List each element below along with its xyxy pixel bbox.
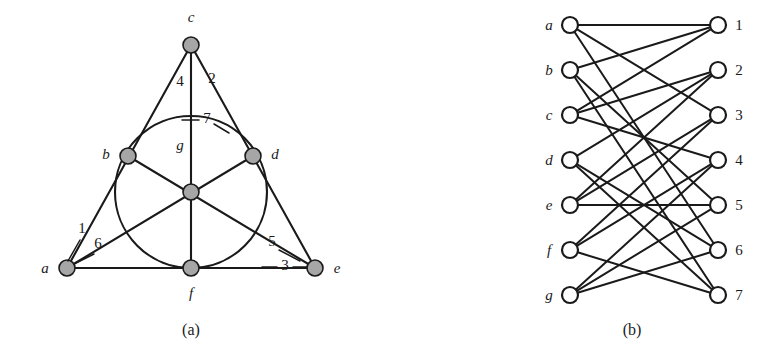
incidence-point-label-c: c	[546, 107, 553, 123]
fano-point-label-g: g	[176, 137, 184, 153]
incidence-line-label-5: 5	[735, 197, 743, 213]
incidence-point-node-d	[562, 152, 578, 168]
incidence-point-label-b: b	[545, 62, 553, 78]
fano-point-b	[120, 148, 136, 164]
leader-line-6	[74, 254, 94, 264]
caption-panel-a: (a)	[182, 321, 200, 339]
fano-line-label-6: 6	[94, 235, 102, 251]
panel-a-fano-plane: abcdefg 1234567 (a)	[41, 9, 340, 339]
fano-point-label-b: b	[102, 146, 110, 162]
fano-line-label-3: 3	[281, 257, 289, 273]
incidence-line-label-6: 6	[735, 242, 743, 258]
fano-line-label-1: 1	[78, 220, 86, 236]
incidence-point-label-d: d	[545, 152, 553, 168]
incidence-edge-d-2	[577, 74, 711, 156]
panel-b-edges	[574, 25, 713, 293]
incidence-edge-b-1	[578, 27, 711, 67]
fano-point-d	[245, 148, 261, 164]
fano-line-6	[67, 156, 253, 268]
fano-point-c	[183, 37, 199, 53]
incidence-point-node-e	[562, 197, 578, 213]
incidence-point-label-f: f	[547, 242, 553, 258]
fano-line-label-5: 5	[268, 233, 276, 249]
fano-point-label-f: f	[189, 285, 195, 301]
incidence-line-label-1: 1	[735, 17, 743, 33]
incidence-point-node-b	[562, 62, 578, 78]
fano-line-5	[128, 156, 315, 268]
fano-line-label-4: 4	[176, 73, 184, 89]
incidence-edge-e-3	[577, 119, 711, 201]
fano-point-g	[183, 184, 199, 200]
fano-point-f	[183, 260, 199, 276]
incidence-line-node-7	[710, 287, 726, 303]
leader-line-1	[68, 240, 80, 261]
fano-point-label-d: d	[271, 146, 279, 162]
incidence-line-node-3	[710, 107, 726, 123]
incidence-point-node-c	[562, 107, 578, 123]
fano-point-a	[59, 260, 75, 276]
incidence-line-node-5	[710, 197, 726, 213]
fano-line-label-7: 7	[203, 110, 211, 126]
incidence-point-node-f	[562, 242, 578, 258]
fano-point-label-e: e	[334, 260, 341, 276]
incidence-line-node-6	[710, 242, 726, 258]
fano-point-label-c: c	[188, 9, 195, 25]
incidence-edge-g-5	[577, 209, 711, 291]
incidence-point-label-e: e	[546, 197, 553, 213]
incidence-line-node-2	[710, 62, 726, 78]
caption-panel-b: (b)	[623, 321, 642, 339]
incidence-edge-c-2	[578, 72, 711, 112]
incidence-line-label-2: 2	[735, 62, 743, 78]
incidence-line-label-4: 4	[735, 152, 743, 168]
incidence-point-label-a: a	[545, 17, 553, 33]
incidence-line-node-4	[710, 152, 726, 168]
fano-point-e	[307, 260, 323, 276]
incidence-point-label-g: g	[545, 287, 553, 303]
panel-b-incidence-graph: abcdefg1234567 (b)	[545, 17, 743, 339]
incidence-point-node-a	[562, 17, 578, 33]
incidence-line-label-3: 3	[735, 107, 743, 123]
incidence-line-label-7: 7	[735, 287, 743, 303]
fano-line-label-2: 2	[208, 70, 216, 86]
incidence-point-node-g	[562, 287, 578, 303]
fano-plane-figure: abcdefg 1234567 (a) abcdefg1234567 (b)	[0, 0, 776, 360]
incidence-line-node-1	[710, 17, 726, 33]
fano-point-label-a: a	[41, 260, 49, 276]
